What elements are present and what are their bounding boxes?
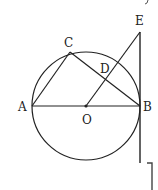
label-e: E xyxy=(135,14,144,28)
label-c: C xyxy=(64,36,73,50)
label-b: B xyxy=(143,100,152,114)
label-o: O xyxy=(82,113,92,127)
geometry-diagram: A B C D E O xyxy=(0,0,158,190)
segment-oe xyxy=(86,32,140,106)
segment-ac xyxy=(32,52,70,106)
label-a: A xyxy=(17,100,27,114)
center-point-o xyxy=(84,104,87,107)
label-d: D xyxy=(100,62,110,76)
corner-artifact-top xyxy=(145,0,148,4)
corner-bracket-bottom xyxy=(147,163,152,190)
